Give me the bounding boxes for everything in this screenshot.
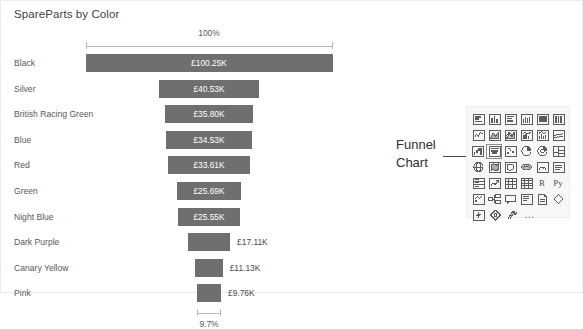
funnel-bar[interactable]: £33.61K [168,156,251,174]
line-and-stacked-column-chart-icon[interactable] [519,128,534,143]
ribbon-chart-icon[interactable] [551,128,566,143]
funnel-bar[interactable]: £25.69K [177,182,240,200]
annotation-line-1: Funnel [396,136,436,154]
decomposition-tree-icon[interactable] [487,192,502,207]
power-automate-icon[interactable] [471,208,487,223]
viz-gallery-row: … [470,207,566,223]
funnel-top-percent-bracket [86,42,333,49]
python-visual-icon[interactable]: Py [551,176,566,191]
funnel-value-label: £25.55K [178,212,241,222]
funnel-bottom-percent-bracket [197,309,221,316]
slicer-icon[interactable] [503,176,518,191]
viz-gallery-row [470,191,566,207]
card-icon[interactable] [551,160,566,175]
viz-gallery-row [470,127,566,143]
funnel-value-label: £33.61K [168,160,251,170]
funnel-category-label: Red [14,160,30,170]
funnel-chart-icon[interactable] [486,144,501,159]
map-icon[interactable] [471,160,486,175]
clustered-bar-chart-icon[interactable] [503,112,518,127]
stacked-column-chart-icon[interactable] [487,112,502,127]
funnel-category-label: Dark Purple [14,237,59,247]
viz-gallery-row: RPy [470,175,566,191]
table-icon[interactable] [519,176,534,191]
annotation-funnel-chart: Funnel Chart [396,136,436,172]
funnel-value-label: £40.53K [159,84,259,94]
hundred-percent-stacked-column-chart-icon[interactable] [551,112,566,127]
funnel-value-label: £25.69K [177,186,240,196]
funnel-bar[interactable]: £25.55K [178,208,241,226]
clustered-column-chart-icon[interactable] [519,112,534,127]
viz-gallery-row [470,159,566,175]
funnel-bar[interactable]: £35.80K [165,105,253,123]
funnel-value-label: £35.80K [165,109,253,119]
multi-row-card-icon[interactable] [471,176,486,191]
area-chart-icon[interactable] [487,128,502,143]
more-options-label: … [524,210,535,220]
smart-narrative-icon[interactable] [519,192,534,207]
funnel-category-label: Silver [14,84,36,94]
funnel-bar[interactable]: £40.53K [159,80,259,98]
line-and-clustered-column-chart-icon[interactable] [535,128,550,143]
stacked-area-chart-icon[interactable] [503,128,518,143]
donut-chart-icon[interactable] [535,144,550,159]
funnel-bar[interactable] [197,284,221,302]
gauge-icon[interactable] [535,160,550,175]
annotation-line-2: Chart [396,154,436,172]
funnel-bar[interactable]: £100.25K [86,54,333,72]
funnel-category-label: Green [14,186,38,196]
scatter-chart-icon[interactable] [503,144,518,159]
funnel-category-label: British Racing Green [14,109,93,119]
scatter-chart-large-icon[interactable] [505,208,521,223]
funnel-value-label: £11.13K [230,263,261,273]
hundred-percent-stacked-bar-chart-icon[interactable] [535,112,550,127]
azure-map-icon[interactable] [519,160,534,175]
funnel-bar[interactable] [188,233,230,251]
kpi-icon[interactable] [487,176,502,191]
power-apps-icon[interactable] [551,192,566,207]
visualization-gallery-panel[interactable]: RPy… [466,106,570,218]
python-visual-icon-label: Py [553,178,563,188]
funnel-category-label: Pink [14,288,31,298]
funnel-bar[interactable] [195,259,222,277]
r-script-visual-icon-label: R [539,178,545,188]
funnel-value-label: £100.25K [86,58,333,68]
more-options-icon[interactable]: … [522,208,538,223]
r-script-visual-icon[interactable]: R [535,176,550,191]
treemap-icon[interactable] [551,144,566,159]
funnel-value-label: £9.76K [228,288,255,298]
funnel-category-label: Black [14,58,35,68]
arcgis-maps-icon[interactable] [488,208,504,223]
funnel-category-label: Canary Yellow [14,263,68,273]
stacked-bar-chart-icon[interactable] [471,112,486,127]
page-title: SpareParts by Color [14,8,119,20]
paginated-report-icon[interactable] [535,192,550,207]
funnel-chart: Black£100.25KSilver£40.53KBritish Racing… [0,26,400,288]
waterfall-chart-icon[interactable] [471,144,486,159]
line-chart-icon[interactable] [471,128,486,143]
shape-map-icon[interactable] [503,160,518,175]
funnel-value-label: £34.53K [166,135,251,145]
funnel-bar[interactable]: £34.53K [166,131,251,149]
q-and-a-icon[interactable] [503,192,518,207]
funnel-category-label: Blue [14,135,31,145]
filled-map-icon[interactable] [487,160,502,175]
funnel-bottom-percent-label: 9.7% [177,319,241,329]
key-influencers-icon[interactable] [471,192,486,207]
pie-chart-icon[interactable] [519,144,534,159]
funnel-category-label: Night Blue [14,212,54,222]
viz-gallery-row [470,111,566,127]
funnel-top-percent-label: 100% [86,28,333,38]
viz-gallery-row [470,143,566,159]
funnel-value-label: £17.11K [237,237,268,247]
